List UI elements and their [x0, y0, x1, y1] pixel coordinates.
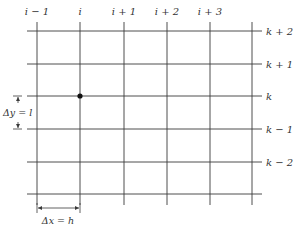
dx-arrow-left-icon	[38, 206, 42, 210]
dx-dimension-marker	[37, 203, 80, 213]
node-i-k-dot	[77, 93, 82, 98]
dx-arrow-right-icon	[75, 206, 79, 210]
grid-diagram: i − 1 i i + 1 i + 2 i + 3 k + 2 k + 1 k …	[0, 0, 293, 231]
dy-arrow-down-icon	[16, 124, 20, 128]
vertical-grid-lines	[37, 22, 252, 205]
horizontal-grid-lines	[27, 31, 262, 194]
column-label-i-plus-1: i + 1	[112, 6, 136, 17]
row-label-k-plus-1: k + 1	[266, 59, 293, 70]
dy-arrow-up-icon	[16, 97, 20, 101]
row-label-k-minus-1: k − 1	[266, 124, 293, 135]
row-label-k-plus-2: k + 2	[266, 26, 293, 37]
row-label-k: k	[266, 91, 272, 102]
column-label-i-minus-1: i − 1	[25, 6, 49, 17]
row-label-k-minus-2: k − 2	[266, 157, 293, 168]
column-label-i-plus-3: i + 3	[198, 6, 222, 17]
dy-label: Δy = l	[2, 107, 32, 118]
column-label-i: i	[78, 6, 81, 17]
column-label-i-plus-2: i + 2	[155, 6, 179, 17]
dx-label: Δx = h	[41, 215, 74, 226]
